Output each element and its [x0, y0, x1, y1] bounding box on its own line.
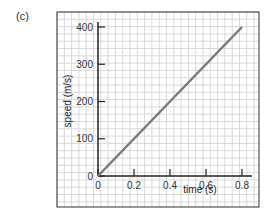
speed-line: [98, 27, 242, 176]
y-tick-label: 200: [76, 96, 93, 107]
y-tick-label: 300: [76, 59, 93, 70]
y-tick-label: 0: [87, 171, 93, 182]
chart: 010020030040000.20.40.60.8 time (s) spee…: [0, 0, 270, 221]
x-axis-title: time (s): [183, 184, 216, 195]
y-tick-label: 400: [76, 22, 93, 33]
data-series: [98, 27, 242, 176]
x-tick-label: 0.4: [163, 180, 177, 191]
y-axis-title: speed (m/s): [62, 75, 73, 128]
x-tick-label: 0: [95, 180, 101, 191]
x-tick-label: 0.8: [235, 180, 249, 191]
x-tick-label: 0.2: [127, 180, 141, 191]
y-tick-label: 100: [76, 133, 93, 144]
